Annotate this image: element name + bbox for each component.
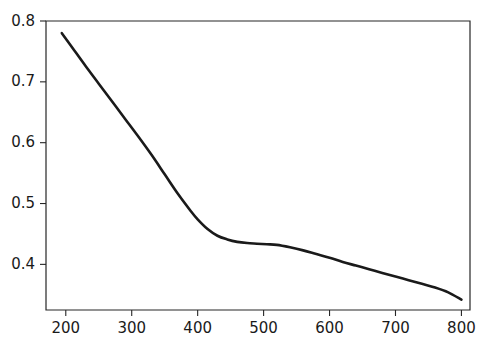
x-tick-label: 600 [315, 319, 344, 337]
x-tick-label: 400 [183, 319, 212, 337]
y-tick-label: 0.7 [11, 72, 35, 90]
data-series-group [62, 33, 462, 299]
y-axis-ticks: 0.40.50.60.70.8 [11, 12, 46, 273]
line-chart-canvas: 200300400500600700800 0.40.50.60.70.8 [0, 0, 495, 349]
y-tick-label: 0.6 [11, 133, 35, 151]
chart-figure: 200300400500600700800 0.40.50.60.70.8 [0, 0, 495, 349]
axes-frame [46, 21, 470, 310]
y-tick-label: 0.5 [11, 194, 35, 212]
x-tick-label: 800 [447, 319, 476, 337]
x-tick-label: 500 [249, 319, 278, 337]
x-tick-label: 300 [117, 319, 146, 337]
axes-spines [46, 21, 470, 310]
y-tick-label: 0.8 [11, 12, 35, 30]
x-tick-label: 200 [51, 319, 80, 337]
y-tick-label: 0.4 [11, 255, 35, 273]
data-line-curve [62, 33, 462, 299]
x-axis-ticks: 200300400500600700800 [51, 310, 475, 337]
x-tick-label: 700 [381, 319, 410, 337]
